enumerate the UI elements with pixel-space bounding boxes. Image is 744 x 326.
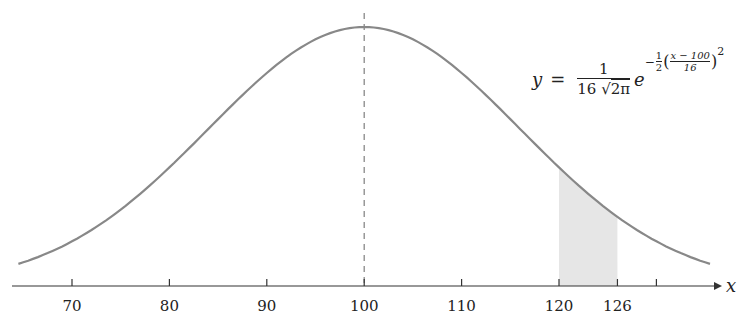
coef-numerator: 1	[599, 60, 609, 78]
shaded-region-120-126	[559, 167, 617, 286]
x-axis-arrow	[714, 282, 722, 290]
coef-denominator: 16 √2π	[577, 79, 630, 99]
normal-curve-chart: 708090100110120126 x	[0, 0, 744, 326]
equation-label: y = 1 16 √2π e − 12 ( x − 10016 ) 2	[532, 60, 724, 99]
x-tick-label-126: 126	[603, 297, 632, 315]
x-tick-label-100: 100	[350, 297, 379, 315]
x-tick-label-70: 70	[62, 297, 81, 315]
formula-exponent: − 12 ( x − 10016 ) 2	[645, 50, 724, 73]
x-tick-label-120: 120	[545, 297, 574, 315]
x-tick-label-90: 90	[257, 297, 276, 315]
formula-lhs: y	[532, 69, 542, 90]
x-tick-label-80: 80	[160, 297, 179, 315]
formula-equals: =	[550, 69, 565, 90]
formula-base: e	[634, 69, 645, 90]
x-axis-label: x	[726, 275, 736, 296]
formula-coefficient: 1 16 √2π	[577, 60, 630, 99]
x-tick-label-110: 110	[447, 297, 476, 315]
